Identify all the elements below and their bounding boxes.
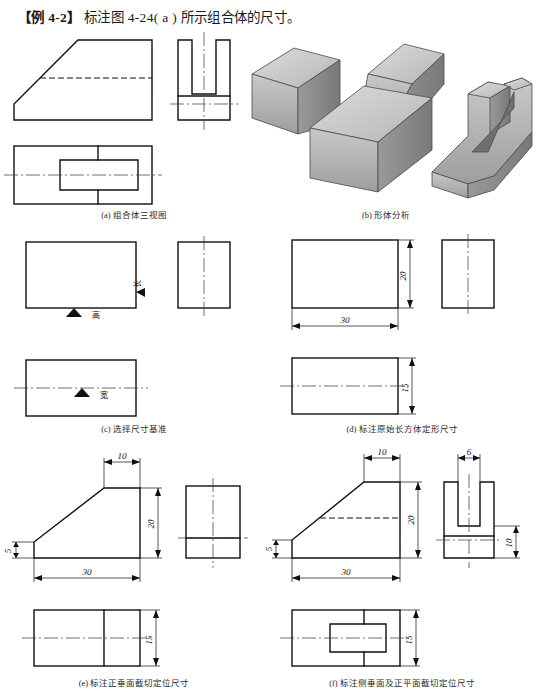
- datum-length-marker: 长: [132, 280, 145, 297]
- panel-f-drawing: 10 20 5: [268, 448, 536, 678]
- front-view-f: [292, 482, 400, 558]
- dim-label-e-5: 5: [3, 548, 13, 553]
- datum-width-label: 宽: [100, 390, 108, 400]
- page-title: 【例 4-2】 标注图 4-24( a ) 所示组合体的尺寸。: [18, 6, 300, 26]
- dim-label-f-15: 15: [404, 635, 414, 645]
- dim-label-f-6: 6: [467, 447, 472, 457]
- top-view-c: 宽: [14, 360, 148, 416]
- dim-height-f: 20: [400, 482, 422, 558]
- panel-b-drawing: [236, 26, 536, 206]
- panel-d-drawing: 20 30: [268, 236, 536, 421]
- panel-d: 20 30: [268, 236, 536, 441]
- side-view-e: [178, 478, 248, 568]
- dim-toplen-f: 10: [364, 447, 400, 482]
- panel-a: (a) 组合体三视图: [0, 26, 268, 226]
- dim-label-20: 20: [398, 271, 408, 281]
- caption-c: (c) 选择尺寸基准: [0, 422, 268, 434]
- dim-width-d: 15: [398, 358, 416, 414]
- panel-c-drawing: 长 高 宽: [0, 236, 268, 421]
- solid-composite: [432, 78, 532, 198]
- dim-label-f-10: 10: [378, 447, 388, 457]
- figure-page: 【例 4-2】 标注图 4-24( a ) 所示组合体的尺寸。: [0, 0, 536, 698]
- top-view-d: [280, 358, 410, 414]
- side-view-f: [436, 474, 502, 568]
- dim-label-30: 30: [340, 315, 351, 325]
- panel-b: (b) 形体分析: [236, 26, 536, 226]
- dim-height-e: 20: [140, 488, 162, 558]
- datum-height-label: 高: [92, 310, 100, 320]
- front-view-d: [292, 240, 398, 308]
- caption-e: (e) 标注正垂面截切定位尺寸: [0, 676, 268, 688]
- dim-label-f-10d: 10: [504, 538, 514, 548]
- top-view-e: [22, 610, 152, 666]
- side-view-a: [170, 32, 238, 130]
- panel-a-drawing: [0, 26, 268, 206]
- dim-label-e-20: 20: [146, 519, 156, 529]
- dim-height-d: 20: [398, 240, 414, 308]
- dim-label-f-5: 5: [264, 546, 274, 551]
- panel-f: 10 20 5: [268, 448, 536, 698]
- side-view-c: [178, 236, 230, 316]
- dim-label-15: 15: [400, 383, 410, 393]
- dim-length-f: 30: [292, 558, 400, 582]
- panel-e: 10 20 5: [0, 448, 268, 698]
- title-text: 标注图 4-24( a ) 所示组合体的尺寸。: [84, 10, 300, 25]
- panel-e-drawing: 10 20 5: [0, 448, 268, 678]
- dim-leftheight-f: 5: [264, 540, 292, 558]
- dim-label-f-20: 20: [406, 515, 416, 525]
- top-view-f: [280, 610, 412, 666]
- dim-length-e: 30: [34, 558, 140, 582]
- datum-height-marker: 高: [66, 308, 100, 320]
- dim-toplen-e: 10: [104, 451, 140, 488]
- example-tag: 【例 4-2】: [18, 10, 80, 25]
- dim-label-f-30: 30: [341, 567, 352, 577]
- dim-label-e-10: 10: [118, 451, 128, 461]
- dim-slotdepth-f: 10: [494, 526, 520, 558]
- top-view-a: [4, 146, 162, 204]
- caption-b: (b) 形体分析: [236, 208, 536, 220]
- front-view-e: [34, 488, 140, 558]
- dim-leftheight-e: 5: [3, 542, 34, 558]
- side-view-d: [442, 234, 494, 316]
- dim-label-e-15: 15: [144, 635, 154, 645]
- dim-length-d: 30: [292, 308, 398, 330]
- dim-label-e-30: 30: [82, 567, 93, 577]
- front-view-a: [14, 40, 152, 120]
- caption-a: (a) 组合体三视图: [0, 208, 268, 220]
- front-view-c: [26, 242, 136, 308]
- caption-f: (f) 标注侧垂面及正平面截切定位尺寸: [268, 676, 536, 688]
- datum-length-label: 长: [132, 280, 142, 288]
- caption-d: (d) 标注原始长方体定形尺寸: [268, 422, 536, 434]
- panel-c: 长 高 宽 (c) 选择尺寸基准: [0, 236, 268, 441]
